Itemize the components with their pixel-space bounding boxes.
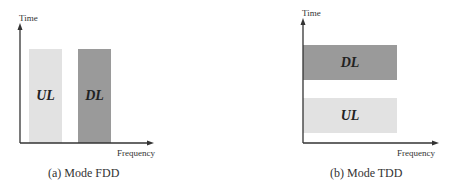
- tdd-caption: (b) Mode TDD: [330, 167, 402, 179]
- tdd-x-axis-label: Frequency: [397, 149, 435, 158]
- tdd-x-arrow-icon: [432, 141, 439, 146]
- tdd-axes: [0, 0, 452, 193]
- tdd-y-arrow-icon: [301, 18, 306, 25]
- tdd-y-axis-label: Time: [302, 9, 321, 18]
- diagram-canvas: UL DL Time Frequency (a) Mode FDD DL UL: [0, 0, 452, 193]
